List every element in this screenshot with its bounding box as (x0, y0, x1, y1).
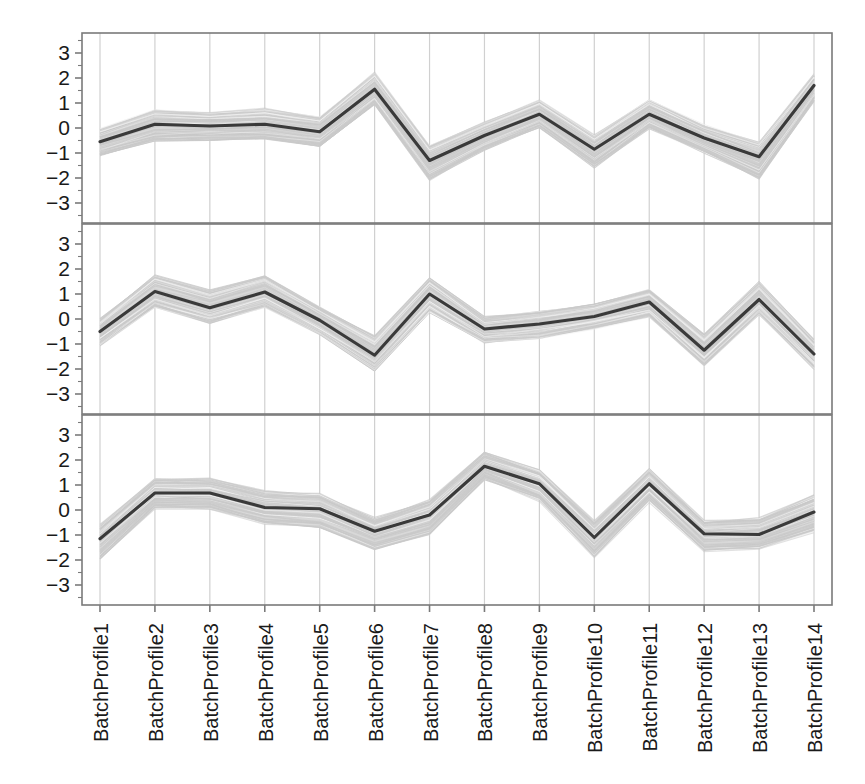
x-axis-tick-label-2: BatchProfile2 (145, 623, 167, 742)
y-axis-tick-label: −1 (46, 523, 70, 546)
y-axis-tick-label: 1 (58, 282, 70, 305)
x-axis-tick-label-13: BatchProfile13 (749, 623, 771, 753)
y-axis-tick-label: 0 (58, 307, 70, 330)
y-axis-tick-label: 3 (58, 423, 70, 446)
y-axis-tick-label: −3 (46, 191, 70, 214)
x-axis-tick-label-3: BatchProfile3 (200, 623, 222, 742)
y-axis-tick-label: −1 (46, 332, 70, 355)
chart-panel-1: 3210−1−2−3 (46, 33, 832, 223)
x-axis-tick-label-7: BatchProfile7 (420, 623, 442, 742)
x-axis-tick-label-10: BatchProfile10 (584, 623, 606, 753)
y-axis-tick-label: 2 (58, 448, 70, 471)
chart-panel-3: 3210−1−2−3 (46, 415, 832, 605)
y-axis-tick-label: 0 (58, 116, 70, 139)
y-axis-tick-label: 3 (58, 232, 70, 255)
y-axis-tick-label: 1 (58, 91, 70, 114)
x-axis-tick-label-6: BatchProfile6 (365, 623, 387, 742)
y-axis-tick-label: 0 (58, 498, 70, 521)
y-axis-tick-label: 1 (58, 473, 70, 496)
panel-background (82, 415, 832, 605)
y-axis-tick-label: −3 (46, 382, 70, 405)
chart-figure: 3210−1−2−33210−1−2−33210−1−2−3BatchProfi… (0, 0, 865, 784)
y-axis-tick-label: −3 (46, 573, 70, 596)
y-axis-tick-label: 2 (58, 257, 70, 280)
x-axis-tick-label-9: BatchProfile9 (529, 623, 551, 742)
y-axis-tick-label: −2 (46, 357, 70, 380)
parallel-coordinates-chart: 3210−1−2−33210−1−2−33210−1−2−3BatchProfi… (0, 0, 865, 784)
x-axis-tick-label-8: BatchProfile8 (474, 623, 496, 742)
y-axis-tick-label: 3 (58, 41, 70, 64)
chart-panel-2: 3210−1−2−3 (46, 224, 832, 414)
x-axis-tick-label-5: BatchProfile5 (310, 623, 332, 742)
x-axis-tick-label-14: BatchProfile14 (804, 623, 826, 753)
x-axis-tick-label-11: BatchProfile11 (639, 623, 661, 752)
x-axis-tick-label-4: BatchProfile4 (255, 623, 277, 742)
y-axis-tick-label: 2 (58, 66, 70, 89)
y-axis-tick-label: −1 (46, 141, 70, 164)
x-axis: BatchProfile1BatchProfile2BatchProfile3B… (90, 605, 826, 753)
x-axis-tick-label-1: BatchProfile1 (90, 623, 112, 742)
y-axis-tick-label: −2 (46, 548, 70, 571)
x-axis-tick-label-12: BatchProfile12 (694, 623, 716, 753)
y-axis-tick-label: −2 (46, 166, 70, 189)
